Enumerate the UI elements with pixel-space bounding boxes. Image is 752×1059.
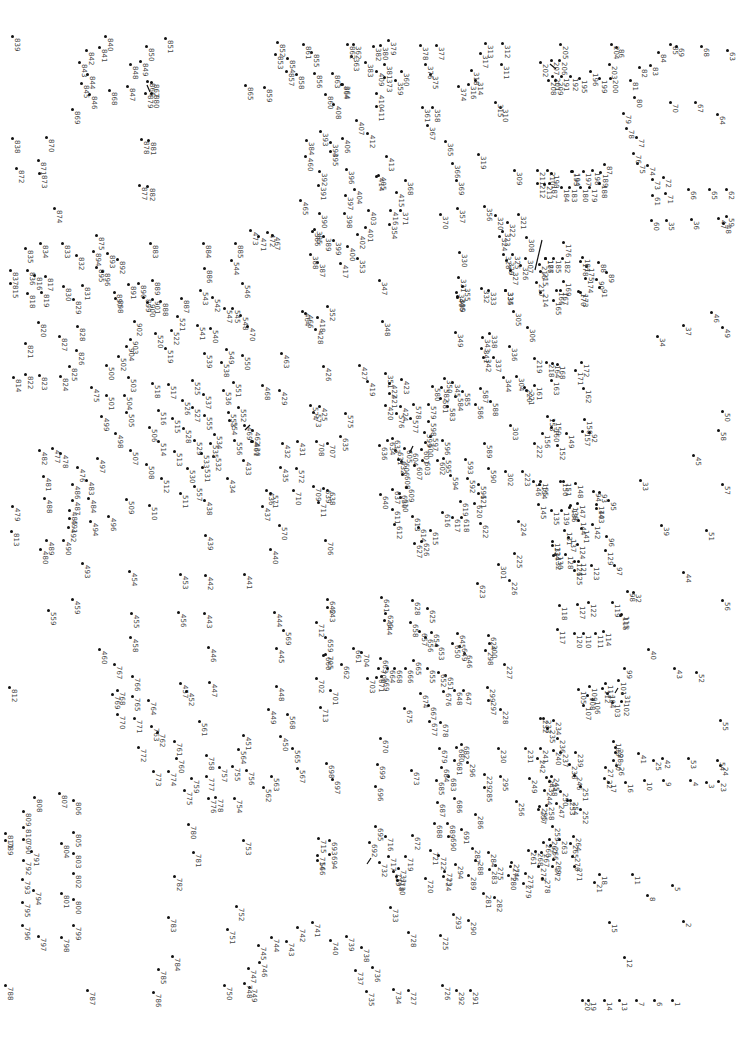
dot-number-label: 578: [414, 406, 421, 419]
dot-number-label: 628: [413, 602, 420, 615]
dot-number-label: 476: [78, 469, 85, 482]
dot-number-label: 184: [562, 189, 569, 202]
dot-number-label: 37: [684, 327, 691, 336]
dot-number-label: 504: [125, 397, 132, 410]
dot-number-label: 774: [169, 773, 176, 786]
dot-number-label: 226: [510, 582, 517, 595]
dot-number-label: 675: [405, 710, 412, 723]
dot-number-label: 365: [446, 143, 453, 156]
dot-number-label: 697: [333, 781, 340, 794]
dot-number-label: 881: [149, 142, 156, 155]
dot-number-label: 231: [526, 750, 533, 763]
dot-number-label: 45: [694, 457, 701, 466]
dot-number-label: 539: [205, 355, 212, 368]
dot-number-label: 676: [444, 693, 451, 706]
dot-number-label: 896: [103, 273, 110, 286]
dot-number-label: 123: [592, 567, 599, 580]
dot-number-label: 657: [420, 633, 427, 646]
dot-number-label: 766: [133, 678, 140, 691]
dot-number-label: 734: [394, 991, 401, 1004]
dot-number-label: 92: [590, 434, 597, 443]
dot-number-label: 134: [553, 547, 560, 560]
dot-number-label: 590: [489, 470, 496, 483]
dot-number-label: 690: [449, 838, 456, 851]
dot-number-label: 369: [457, 182, 464, 195]
dot-number-label: 356: [485, 208, 492, 221]
dot-number-label: 297: [489, 702, 496, 715]
dot-number-label: 192: [571, 78, 578, 91]
dot-number-label: 113: [606, 685, 613, 698]
dot-number-label: 825: [70, 368, 77, 381]
dot-number-label: 760: [177, 760, 184, 773]
dot-number-label: 756: [247, 772, 254, 785]
dot-number-label: 502: [119, 358, 126, 371]
dot-number-label: 312: [503, 45, 510, 58]
dot-number-label: 2: [684, 923, 691, 927]
dot-number-label: 587: [481, 390, 488, 403]
dot-number-label: 450: [281, 738, 288, 751]
dot-number-label: 470: [248, 328, 255, 341]
dot-number-label: 116: [621, 617, 628, 630]
dot-number-label: 786: [154, 994, 161, 1007]
dot-number-label: 521: [178, 318, 185, 331]
dot-number-label: 202: [541, 64, 548, 77]
dot-number-label: 56: [723, 602, 730, 611]
dot-number-label: 847: [128, 88, 135, 101]
dot-number-label: 885: [236, 245, 243, 258]
dot-number-label: 89: [607, 274, 614, 283]
dot-number-label: 475: [92, 389, 99, 402]
dot-number-label: 336: [510, 348, 517, 361]
dot-number-label: 197: [584, 173, 591, 186]
dot-number-label: 831: [83, 287, 90, 300]
dot-number-label: 635: [341, 438, 348, 451]
dot-number-label: 658: [411, 624, 418, 637]
dot-number-label: 737: [356, 972, 363, 985]
dot-number-label: 509: [127, 501, 134, 514]
dot-number-label: 463: [282, 355, 289, 368]
dot-number-label: 655: [428, 670, 435, 683]
dot-number-label: 835: [26, 250, 33, 263]
dot-number-label: 207: [552, 62, 559, 75]
dot-number-label: 615: [431, 532, 438, 545]
dot-number-label: 6: [655, 1002, 662, 1006]
dot-number-label: 65: [710, 191, 717, 200]
dot-number-label: 872: [17, 170, 24, 183]
dot-number-label: 662: [342, 666, 349, 679]
dot-number-label: 281: [484, 895, 491, 908]
dot-number-label: 855: [312, 54, 319, 67]
dot-number-label: 358: [433, 109, 440, 122]
dot-number-label: 670: [381, 740, 388, 753]
dot-number-label: 224: [519, 523, 526, 536]
dot-number-label: 402: [358, 236, 365, 249]
dot-number-label: 126: [575, 563, 582, 576]
dot-number-label: 878: [142, 141, 149, 154]
dot-number-label: 60: [652, 222, 659, 231]
dot-number-label: 807: [60, 795, 67, 808]
dot-number-label: 637: [393, 491, 400, 504]
dot-number-label: 39: [662, 527, 669, 536]
dot-number-label: 447: [210, 684, 217, 697]
dot-number-label: 822: [26, 376, 33, 389]
dot-number-label: 557: [195, 488, 202, 501]
dot-number-label: 194: [573, 173, 580, 186]
dot-number-label: 584: [456, 398, 463, 411]
dot-number-label: 428: [316, 331, 323, 344]
dot-number-label: 449: [269, 711, 276, 724]
dot-number-label: 15: [610, 924, 617, 933]
dot-number-label: 820: [39, 324, 46, 337]
dot-number-label: 873: [40, 175, 47, 188]
dot-number-label: 120: [575, 635, 582, 648]
dot-number-label: 242: [538, 760, 545, 773]
dot-number-label: 278: [543, 880, 550, 893]
dot-number-label: 801: [62, 895, 69, 908]
dot-number-label: 247: [557, 805, 564, 818]
dot-number-label: 870: [47, 139, 54, 152]
dot-number-label: 332: [482, 290, 489, 303]
dot-number-label: 708: [317, 443, 324, 456]
dot-number-label: 829: [74, 301, 81, 314]
dot-number-label: 868: [110, 92, 117, 105]
dot-number-label: 303: [511, 427, 518, 440]
dot-number-label: 149: [567, 435, 574, 448]
dot-number-label: 460: [306, 158, 313, 171]
dot-number-label: 388: [311, 256, 318, 269]
